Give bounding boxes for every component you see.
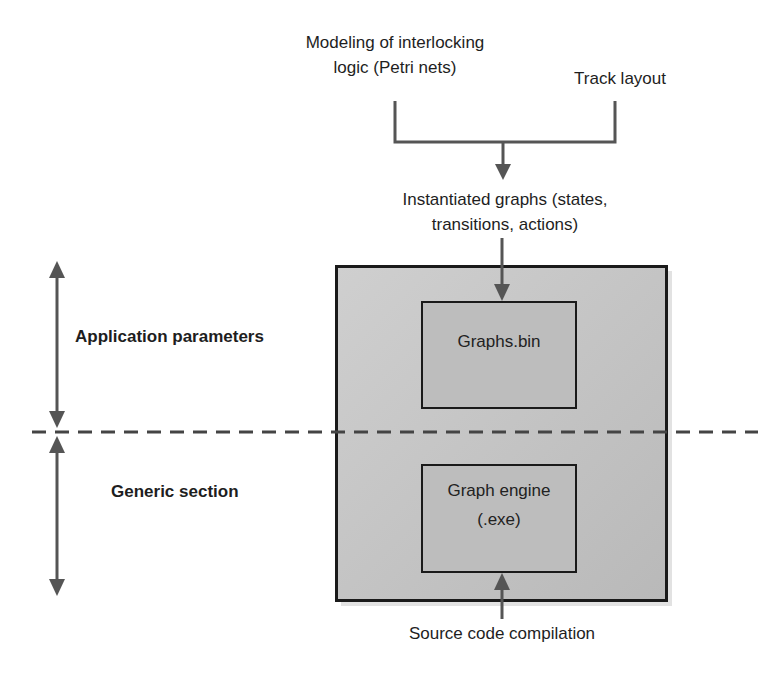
track-layout-label: Track layout: [560, 68, 680, 90]
instantiated-graphs-line2: transitions, actions): [360, 214, 650, 236]
application-parameters-label: Application parameters: [75, 326, 264, 348]
source-code-compilation-label: Source code compilation: [380, 623, 624, 645]
generic-section-span-arrow: [49, 436, 65, 596]
arrow-down-icon: [495, 164, 511, 180]
arrow-down-icon: [494, 284, 510, 301]
input-merge-bracket: [395, 101, 615, 166]
modeling-label-line1: Modeling of interlocking: [270, 32, 520, 54]
application-parameters-span-arrow: [49, 261, 65, 428]
instantiated-graphs-line1: Instantiated graphs (states,: [360, 189, 650, 211]
modeling-label: Modeling of interlocking logic (Petri ne…: [270, 32, 520, 79]
modeling-label-line2: logic (Petri nets): [270, 57, 520, 79]
generic-section-label: Generic section: [111, 481, 239, 503]
instantiated-graphs-label: Instantiated graphs (states, transitions…: [360, 189, 650, 236]
arrow-up-icon: [494, 573, 510, 590]
